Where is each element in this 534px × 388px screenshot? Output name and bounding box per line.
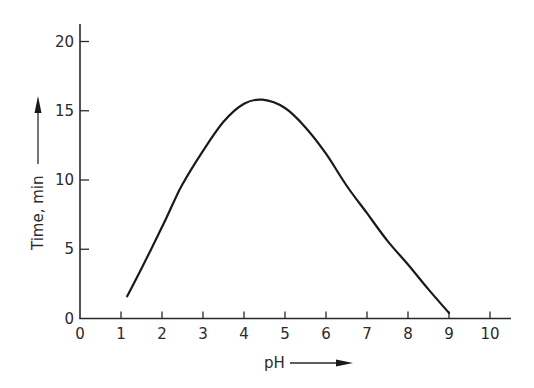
y-ticks: 05101520 (55, 33, 89, 328)
x-tick-label: 6 (321, 325, 331, 343)
x-tick-label: 3 (198, 325, 208, 343)
x-axis-title-text: pH (264, 354, 285, 372)
y-tick-label: 0 (64, 310, 74, 328)
y-tick-label: 5 (64, 240, 74, 258)
x-tick-label: 5 (280, 325, 290, 343)
axes (79, 24, 511, 319)
data-series (127, 100, 449, 313)
y-axis-title-text: Time, min (29, 175, 47, 251)
x-ticks: 012345678910 (75, 312, 499, 343)
chart: 012345678910 05101520 pH Time, min (0, 0, 534, 388)
x-tick-label: 4 (239, 325, 249, 343)
x-tick-label: 10 (480, 325, 499, 343)
x-axis-arrowhead-icon (336, 360, 353, 367)
x-tick-label: 0 (75, 325, 85, 343)
y-axis-arrowhead-icon (35, 96, 42, 113)
x-tick-label: 2 (157, 325, 167, 343)
y-tick-label: 15 (55, 102, 74, 120)
series-line (127, 100, 449, 313)
y-tick-label: 20 (55, 33, 74, 51)
x-tick-label: 8 (403, 325, 413, 343)
x-axis-title: pH (264, 354, 353, 372)
x-tick-label: 9 (444, 325, 454, 343)
x-tick-label: 1 (116, 325, 126, 343)
y-tick-label: 10 (55, 171, 74, 189)
y-axis-title: Time, min (29, 96, 47, 251)
x-tick-label: 7 (362, 325, 372, 343)
